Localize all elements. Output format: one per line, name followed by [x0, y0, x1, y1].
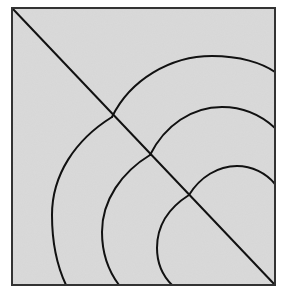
- diagram-svg: [0, 0, 283, 292]
- diagram-canvas: [0, 0, 283, 292]
